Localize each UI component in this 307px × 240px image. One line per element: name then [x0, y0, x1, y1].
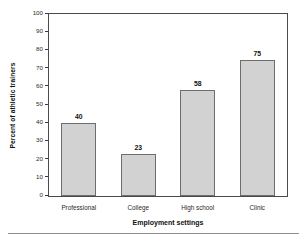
y-tick-label: 70	[36, 63, 43, 73]
bar-value-label: 23	[121, 144, 156, 152]
y-tick: 70	[36, 63, 48, 73]
x-tick-label: High school	[168, 203, 228, 212]
y-tick-label: 40	[36, 117, 43, 127]
y-tick: 10	[36, 172, 48, 182]
bar-group: 40	[61, 14, 96, 196]
bar-chart-figure: Percent of athletic trainers 01020304050…	[0, 0, 307, 240]
y-tick-label: 60	[36, 81, 43, 91]
bar[interactable]	[180, 90, 215, 196]
plot-area: 40235875	[49, 14, 287, 196]
y-tick-label: 30	[36, 135, 43, 145]
bar-group: 75	[240, 14, 275, 196]
y-tick: 80	[36, 44, 48, 54]
y-tick-label: 80	[36, 44, 43, 54]
x-axis-title: Employment settings	[48, 218, 288, 227]
y-tick-label: 90	[36, 26, 43, 36]
bar-group: 23	[121, 14, 156, 196]
bar[interactable]	[240, 60, 275, 197]
bar-value-label: 58	[180, 80, 215, 88]
x-tick-label: College	[109, 203, 169, 212]
y-tick: 90	[36, 26, 48, 36]
bar[interactable]	[61, 123, 96, 196]
y-axis-ticks: 0102030405060708090100	[20, 13, 48, 197]
y-tick: 20	[36, 154, 48, 164]
bar-value-label: 40	[61, 113, 96, 121]
bar-group: 58	[180, 14, 215, 196]
y-tick: 40	[36, 117, 48, 127]
y-tick-label: 10	[36, 172, 43, 182]
y-tick: 100	[33, 8, 48, 18]
y-tick-label: 50	[36, 99, 43, 109]
y-axis-title: Percent of athletic trainers	[6, 13, 20, 197]
y-tick: 60	[36, 81, 48, 91]
y-tick: 30	[36, 135, 48, 145]
y-tick-label: 0	[40, 190, 43, 200]
bar[interactable]	[121, 154, 156, 196]
x-tick-label: Professional	[49, 203, 109, 212]
x-tick-label: Clinic	[228, 203, 288, 212]
x-axis-ticks: ProfessionalCollegeHigh schoolClinic	[49, 203, 287, 215]
y-tick-label: 100	[33, 8, 43, 18]
y-tick-label: 20	[36, 154, 43, 164]
y-tick: 50	[36, 99, 48, 109]
y-axis-title-label: Percent of athletic trainers	[10, 62, 17, 148]
bottom-divider	[8, 233, 299, 234]
y-tick: 0	[40, 190, 48, 200]
bar-value-label: 75	[240, 50, 275, 58]
